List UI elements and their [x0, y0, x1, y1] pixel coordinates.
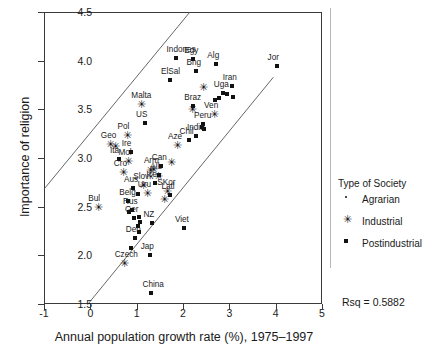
- data-point-label: Bul: [88, 195, 100, 203]
- legend: Type of Society Agrarian✳IndustrialPosti…: [338, 178, 418, 256]
- data-point: [149, 291, 153, 295]
- data-point-label: Mol: [118, 149, 131, 157]
- x-axis-label: Annual population growth rate (%), 1975–…: [24, 330, 344, 344]
- data-point-label: Ven: [204, 102, 218, 110]
- y-tick-label: 3.0: [77, 153, 92, 163]
- x-tick-mark: [90, 304, 91, 310]
- y-axis-label: Importance of religion: [18, 37, 32, 277]
- data-point: [174, 56, 178, 60]
- data-point: [221, 91, 225, 95]
- data-point-label: Peru: [194, 112, 211, 120]
- data-point-label: NZ: [143, 211, 154, 219]
- data-point: [187, 138, 191, 142]
- data-point-label: Latl: [161, 183, 174, 191]
- data-point: [137, 215, 141, 219]
- data-point: ✳: [137, 102, 146, 106]
- y-tick-label: 2.0: [77, 250, 92, 260]
- data-point: [230, 84, 234, 88]
- data-point-label: Uga: [214, 81, 229, 89]
- data-point: [148, 253, 152, 257]
- x-tick-mark: [229, 304, 230, 310]
- data-point-label: ElSal: [161, 68, 180, 76]
- data-point-label: Viet: [175, 216, 189, 224]
- data-point-label: Uru: [138, 181, 151, 189]
- legend-label: Industrial: [362, 216, 403, 227]
- rsq-annotation: Rsq = 0.5882: [342, 296, 405, 308]
- data-point: ✳: [173, 143, 182, 147]
- legend-divider: [330, 8, 331, 268]
- data-point: ✳: [120, 261, 129, 265]
- x-tick-mark: [322, 304, 323, 310]
- data-point-label: Jor: [268, 54, 279, 62]
- data-point-label: Cro: [114, 160, 127, 168]
- data-point-label: China: [142, 281, 163, 289]
- data-point-label: Egy: [184, 47, 198, 55]
- y-tick-label: 4.0: [77, 56, 92, 66]
- legend-item-industrial[interactable]: ✳Industrial: [338, 212, 418, 234]
- data-point: [132, 216, 136, 220]
- y-tick-label: 4.5: [77, 7, 92, 17]
- data-point: [150, 221, 154, 225]
- data-point-label: Malta: [131, 92, 151, 100]
- data-point: [136, 192, 140, 196]
- data-point: [143, 121, 147, 125]
- data-point-label: Bng: [187, 59, 202, 67]
- data-point-label: Ger: [125, 206, 139, 214]
- data-point-label: Aus: [124, 176, 138, 184]
- y-tick-label: 3.5: [77, 104, 92, 114]
- legend-marker-square: [344, 239, 348, 243]
- data-point: ✳: [119, 170, 128, 174]
- data-point-label: Alg: [207, 52, 219, 60]
- data-point: ✳: [199, 85, 208, 89]
- data-point: [194, 69, 198, 73]
- data-point-label: Belg: [119, 189, 135, 197]
- legend-label: Postindustrial: [362, 238, 422, 249]
- data-point: [133, 236, 137, 240]
- data-point: [214, 62, 218, 66]
- data-point-label: US: [136, 111, 147, 119]
- data-point: ✳: [94, 205, 103, 209]
- legend-label: Agrarian: [362, 194, 400, 205]
- y-tick-mark: [38, 61, 44, 62]
- data-point: [225, 92, 229, 96]
- legend-item-agrarian[interactable]: Agrarian: [338, 190, 418, 212]
- data-point: [168, 193, 172, 197]
- data-point-label: Jap: [141, 243, 154, 251]
- y-tick-mark: [38, 207, 44, 208]
- x-tick-mark: [137, 304, 138, 310]
- data-point-label: Ire: [122, 140, 132, 148]
- legend-rows: Agrarian✳IndustrialPostindustrial: [338, 190, 418, 256]
- data-point-label: Aze: [168, 133, 182, 141]
- y-tick-mark: [38, 255, 44, 256]
- data-point-label: Pol: [117, 123, 129, 131]
- x-tick-mark: [183, 304, 184, 310]
- data-point: ✳: [143, 191, 152, 195]
- data-point: [182, 226, 186, 230]
- data-point-label: Czech: [115, 251, 138, 259]
- x-tick-mark: [44, 304, 45, 310]
- legend-title: Type of Society: [338, 178, 418, 190]
- data-point: ✳: [160, 197, 169, 201]
- y-tick-mark: [38, 109, 44, 110]
- data-point-label: Braz: [184, 94, 201, 102]
- data-point-label: Den: [126, 226, 141, 234]
- data-point: ✳: [123, 133, 132, 137]
- y-tick-label: 2.5: [77, 202, 92, 212]
- data-point: [129, 246, 133, 250]
- data-point-label: Geo: [101, 132, 116, 140]
- legend-marker-dot: [345, 196, 348, 199]
- data-point: [168, 78, 172, 82]
- legend-item-postindustrial[interactable]: Postindustrial: [338, 234, 418, 256]
- data-point: [275, 64, 279, 68]
- data-point: ✳: [167, 160, 176, 164]
- data-point: [194, 134, 198, 138]
- y-tick-mark: [38, 12, 44, 13]
- data-point: [231, 95, 235, 99]
- y-tick-mark: [38, 158, 44, 159]
- legend-marker-asterisk: ✳: [343, 217, 352, 221]
- x-tick-mark: [276, 304, 277, 310]
